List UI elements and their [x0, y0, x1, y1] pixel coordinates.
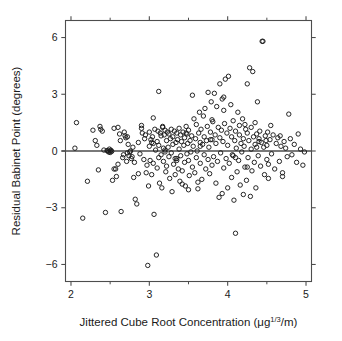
plot-background — [0, 0, 342, 341]
y-tick-label: 0 — [52, 145, 58, 157]
y-tick-label: 3 — [52, 88, 58, 100]
scatter-plot: 2345 630−3−6 Jittered Cube Root Concentr… — [0, 0, 342, 341]
figure-container: 2345 630−3−6 Jittered Cube Root Concentr… — [0, 0, 342, 341]
x-tick-label: 4 — [225, 288, 231, 300]
y-tick-label: 6 — [52, 31, 58, 43]
x-axis-label: Jittered Cube Root Concentration (μg1/3/… — [80, 315, 298, 328]
y-tick-label: −6 — [46, 258, 58, 270]
x-tick-label: 5 — [303, 288, 309, 300]
y-tick-label: −3 — [46, 201, 58, 213]
x-axis-label-text: Jittered Cube Root Concentration (μg1/3/… — [80, 315, 298, 328]
y-axis-label: Residual Babinet Point (degrees) — [10, 66, 22, 235]
x-tick-label: 3 — [146, 288, 152, 300]
x-tick-label: 2 — [68, 288, 74, 300]
y-axis-label-text: Residual Babinet Point (degrees) — [10, 66, 22, 235]
